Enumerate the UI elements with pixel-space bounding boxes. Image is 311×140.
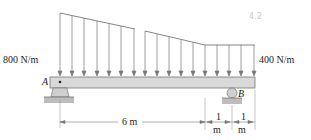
load-left-label: 800 N/m — [3, 54, 38, 65]
dim-seg2-unit: m — [238, 124, 246, 135]
beam — [50, 77, 255, 88]
dim-6m-label: 6 m — [122, 116, 137, 127]
support-b-label: B — [238, 88, 244, 99]
support-a — [44, 88, 74, 103]
handwritten-note: 4.2 — [249, 12, 262, 21]
distributed-load — [60, 13, 255, 45]
support-a-label: A — [42, 76, 48, 87]
pin-a-dot — [59, 81, 62, 84]
dimension-lines — [60, 121, 255, 124]
dim-seg1-num: 1 — [216, 111, 221, 122]
dim-seg1-unit: m — [213, 124, 221, 135]
beam-diagram — [0, 0, 311, 140]
load-right-label: 400 N/m — [259, 54, 294, 65]
dim-seg2-num: 1 — [241, 111, 246, 122]
load-arrows — [58, 13, 256, 76]
